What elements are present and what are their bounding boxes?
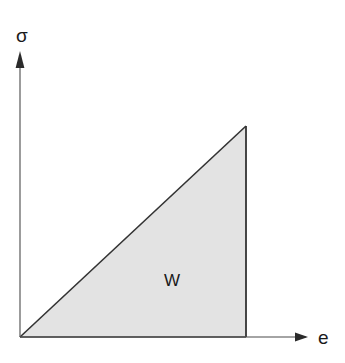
- strain-energy-label: W: [164, 271, 180, 290]
- arrow-right-icon: [295, 333, 308, 342]
- arrow-up-icon: [16, 51, 25, 68]
- figure-canvas: σ e W: [0, 0, 345, 363]
- stress-strain-figure: σ e W: [0, 0, 345, 363]
- x-axis-label: e: [318, 327, 329, 348]
- y-axis-label: σ: [16, 25, 28, 46]
